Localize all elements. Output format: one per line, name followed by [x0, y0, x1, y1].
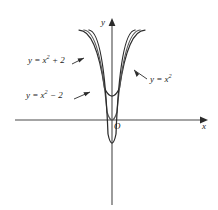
origin-label: O [114, 122, 121, 131]
label-curve-x-squared-minus-2: y = x2 − 2 [26, 91, 63, 100]
x-axis-label: x [202, 122, 206, 131]
figure-canvas: y = x2 + 2 y = x2 − 2 y = x2 y x O [0, 0, 218, 210]
label-upper-operand: + 2 [50, 55, 65, 65]
leader-lower [74, 92, 90, 99]
label-curve-x-squared: y = x2 [150, 75, 172, 84]
graph-svg [0, 0, 218, 210]
y-axis-label: y [101, 18, 105, 27]
leader-upper [72, 58, 84, 64]
label-upper-eq: = [32, 55, 43, 65]
label-lower-operand: − 2 [48, 90, 63, 100]
label-right-eq: = [154, 74, 165, 84]
leader-right [134, 70, 147, 79]
label-curve-x-squared-plus-2: y = x2 + 2 [28, 56, 65, 65]
y-axis-arrowhead [109, 18, 116, 26]
label-lower-eq: = [30, 90, 41, 100]
y-axis [109, 18, 116, 205]
label-right-exponent: 2 [169, 72, 172, 79]
